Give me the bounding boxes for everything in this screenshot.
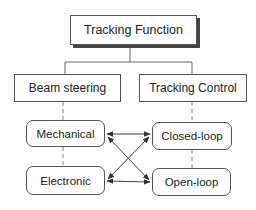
- category-label: Tracking Control: [149, 81, 237, 95]
- leaf-node-closed-loop: Closed-loop: [152, 122, 232, 150]
- category-node-tracking-control: Tracking Control: [139, 74, 247, 102]
- category-label: Beam steering: [29, 81, 106, 95]
- leaf-label: Open-loop: [165, 176, 219, 188]
- leaf-node-electronic: Electronic: [26, 166, 105, 195]
- root-node-label: Tracking Function: [84, 23, 183, 37]
- category-node-beam-steering: Beam steering: [14, 74, 121, 102]
- arrow-electronic-openloop: [107, 181, 150, 182]
- root-node-tracking-function: Tracking Function: [70, 15, 197, 45]
- leaf-label: Electronic: [40, 175, 91, 187]
- leaf-label: Closed-loop: [161, 130, 222, 142]
- leaf-node-mechanical: Mechanical: [26, 120, 105, 147]
- leaf-label: Mechanical: [36, 128, 94, 140]
- leaf-node-open-loop: Open-loop: [152, 168, 231, 196]
